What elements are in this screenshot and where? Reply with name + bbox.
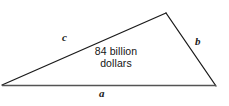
triangle-side-b-line [166,13,216,86]
triangle-figure: c b a 84 billion dollars [0,0,229,106]
interior-annotation-line-2: dollars [76,57,156,69]
interior-annotation: 84 billion dollars [76,45,156,69]
side-c-label: c [62,32,67,43]
side-a-label: a [99,88,105,99]
interior-annotation-line-1: 84 billion [76,45,156,57]
side-b-label: b [195,36,201,47]
